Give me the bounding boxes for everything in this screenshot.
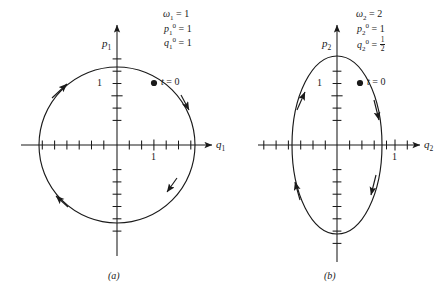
phase-space-figure: p1 q1 1 1 t = 0 ω1 = 1 p10 = 1 q10 = 1 (… bbox=[0, 0, 442, 293]
plot-a-y-axis-label: p1 bbox=[102, 38, 111, 52]
plot-a-axes bbox=[21, 25, 212, 256]
plot-b-param-omega: ω2 = 2 bbox=[356, 9, 382, 22]
plot-a-param-omega: ω1 = 1 bbox=[163, 9, 189, 22]
panel-caption-b: (b) bbox=[324, 271, 336, 281]
plot-b-param-q0: q20 = 12 bbox=[357, 36, 385, 53]
plot-a-param-q0: q10 = 1 bbox=[164, 37, 192, 51]
plot-b-t0-label: t = 0 bbox=[367, 77, 385, 87]
plot-b-x-axis-label: q2 bbox=[424, 139, 433, 153]
plot-b-x-tick-1: 1 bbox=[392, 152, 397, 162]
plot-a-t0-label: t = 0 bbox=[161, 77, 179, 87]
plot-a-t0-marker bbox=[151, 80, 157, 86]
plot-b-axes bbox=[258, 25, 420, 262]
plot-a-param-p0: p10 = 1 bbox=[164, 23, 192, 37]
plot-b-y-tick-1: 1 bbox=[317, 78, 322, 88]
plot-a-x-tick-1: 1 bbox=[151, 152, 156, 162]
plot-b-y-axis-label: p2 bbox=[322, 38, 331, 52]
plot-b-t0-marker bbox=[357, 80, 363, 86]
plot-a-y-tick-1: 1 bbox=[97, 78, 102, 88]
plot-b-ticks bbox=[264, 71, 408, 243]
plot-a-x-axis-label: q1 bbox=[216, 139, 225, 153]
panel-caption-a: (a) bbox=[108, 271, 120, 281]
fraction-denominator: 2 bbox=[380, 45, 386, 53]
